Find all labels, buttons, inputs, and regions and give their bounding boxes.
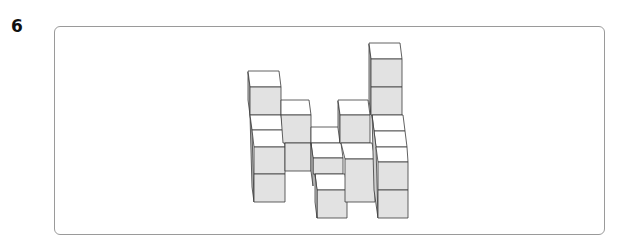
cube-column-e	[369, 43, 408, 218]
cube-column-b	[281, 100, 311, 171]
cube-figure	[0, 0, 626, 251]
cube-column-a	[248, 71, 285, 202]
